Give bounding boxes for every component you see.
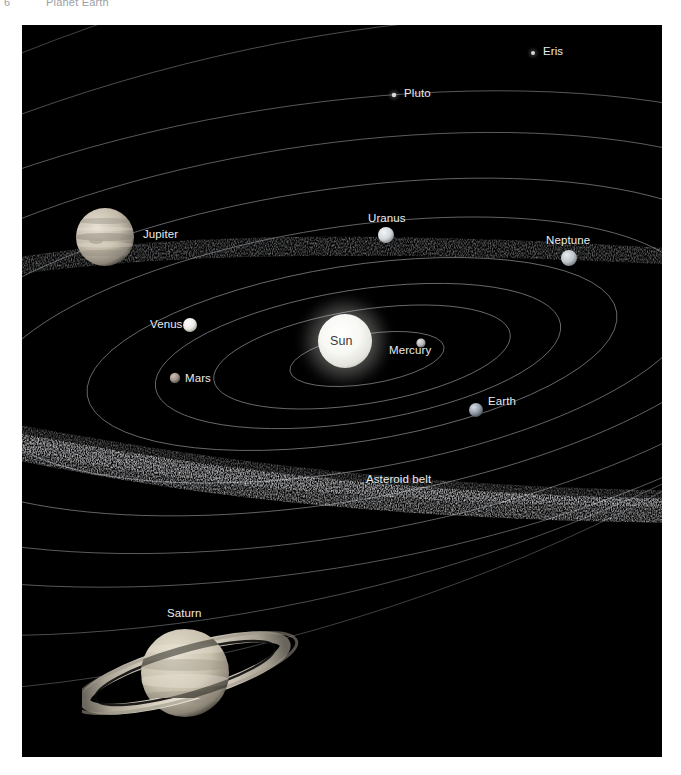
label-uranus: Uranus <box>368 213 406 225</box>
label-saturn: Saturn <box>167 608 201 620</box>
body-neptune[interactable] <box>561 250 577 266</box>
label-neptune: Neptune <box>546 235 590 247</box>
label-asteroid-belt: Asteroid belt <box>366 474 431 486</box>
page-number: 6 <box>4 0 10 8</box>
label-mercury: Mercury <box>389 345 431 357</box>
body-mars[interactable] <box>170 373 180 383</box>
solar-system-canvas <box>22 25 662 757</box>
label-sun: Sun <box>330 335 353 348</box>
solar-system-figure: Eris Pluto Jupiter Uranus Neptune Venus … <box>22 25 662 757</box>
label-mars: Mars <box>185 373 211 385</box>
body-venus[interactable] <box>183 318 197 332</box>
page-running-head: 6 Planet Earth <box>0 0 681 22</box>
body-eris[interactable] <box>529 49 538 58</box>
body-pluto[interactable] <box>389 90 399 100</box>
label-venus: Venus <box>150 319 182 331</box>
label-eris: Eris <box>543 46 563 58</box>
body-earth[interactable] <box>469 403 483 417</box>
label-jupiter: Jupiter <box>143 229 178 241</box>
running-head-title: Planet Earth <box>46 0 109 8</box>
body-uranus[interactable] <box>378 227 394 243</box>
label-earth: Earth <box>488 396 516 408</box>
label-pluto: Pluto <box>404 88 431 100</box>
